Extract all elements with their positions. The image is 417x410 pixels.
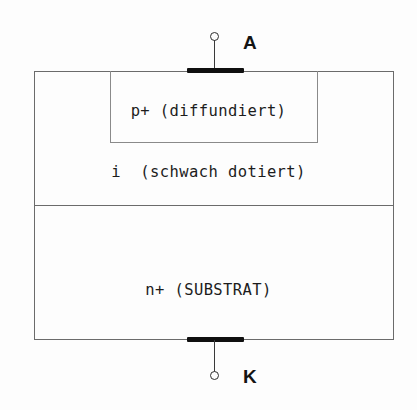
cathode-lead-line	[214, 340, 215, 372]
cathode-contact-bar	[187, 337, 244, 342]
anode-lead-line	[214, 40, 215, 71]
anode-contact-bar	[187, 68, 244, 73]
cathode-terminal-circle-icon	[210, 371, 219, 380]
intrinsic-layer-label: i (schwach dotiert)	[0, 165, 417, 181]
anode-label: A	[243, 33, 257, 52]
n-plus-substrate-label: n+ (SUBSTRAT)	[0, 283, 417, 299]
pin-diode-cross-section-diagram: A p+ (diffundiert) i (schwach dotiert) n…	[0, 0, 417, 410]
junction-divider-line	[34, 205, 394, 206]
cathode-label: K	[243, 367, 257, 386]
p-plus-layer-label: p+ (diffundiert)	[0, 104, 417, 120]
